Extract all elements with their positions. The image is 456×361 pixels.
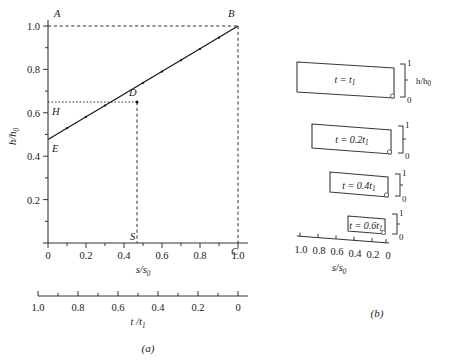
box-3-label-main: t = 0.4t bbox=[342, 180, 372, 191]
box-1-bracket-bottom-label: 0 bbox=[407, 95, 412, 105]
figure-svg: 1.0 0.8 0.6 0.4 0.2 h/h0 0 0.2 0.4 0. bbox=[0, 0, 456, 361]
box-3-corner-dot bbox=[384, 193, 388, 197]
box-1-label-sub: 1 bbox=[352, 79, 356, 87]
box-4-label-main: t = 0.6t bbox=[349, 220, 379, 231]
y-axis-title-main: h/h bbox=[7, 132, 18, 145]
y-tick-label-0.4: 0.4 bbox=[27, 151, 41, 162]
panel-b-tick-0: 0 bbox=[385, 250, 390, 261]
x-tick-label-0.4: 0.4 bbox=[117, 250, 131, 261]
x-axis-primary-title-main: s/s bbox=[136, 264, 147, 275]
panel-b-x-axis-title: s/s0 bbox=[332, 262, 347, 276]
x-tick-label-0.6: 0.6 bbox=[155, 250, 168, 261]
panel-b-tick-0.4: 0.4 bbox=[348, 248, 362, 259]
panel-b-tick-0.8: 0.8 bbox=[312, 245, 325, 256]
panel-b-x-axis-title-main: s/s bbox=[332, 262, 343, 273]
panel-b-x-axis-title-sub: 0 bbox=[343, 268, 347, 276]
y-tick-label-0.2: 0.2 bbox=[27, 195, 40, 206]
box-3-bracket-top-label: 1 bbox=[402, 168, 407, 178]
box-1-bracket-top-label: 1 bbox=[407, 58, 412, 68]
panel-a-caption: (a) bbox=[142, 342, 155, 355]
panel-a: 1.0 0.8 0.6 0.4 0.2 h/h0 0 0.2 0.4 0. bbox=[7, 8, 248, 355]
x-axis-primary-ticks bbox=[48, 243, 238, 248]
y-tick-label-0.8: 0.8 bbox=[27, 64, 40, 75]
panel-b-tick-0.6: 0.6 bbox=[330, 246, 343, 257]
box-4-bracket-top-label: 1 bbox=[399, 208, 404, 218]
y-axis-title-sub: 0 bbox=[13, 128, 21, 132]
point-label-c: C bbox=[231, 246, 239, 257]
point-label-a: A bbox=[53, 8, 61, 19]
point-label-s: S bbox=[130, 231, 136, 242]
x-axis-secondary-ticks bbox=[38, 291, 238, 296]
t-tick-label-1.0: 1.0 bbox=[31, 302, 44, 313]
point-label-d: D bbox=[128, 87, 137, 98]
box-2-corner-dot bbox=[387, 150, 391, 154]
y-tick-label-0.6: 0.6 bbox=[27, 108, 40, 119]
box-2-bracket-bottom-label: 0 bbox=[405, 151, 410, 161]
surface-box-3: t = 0.4t1 1 0 bbox=[330, 168, 407, 204]
panel-b-tick-0.2: 0.2 bbox=[366, 249, 379, 260]
point-label-h: H bbox=[51, 106, 61, 117]
x-axis-secondary-title: t /t1 bbox=[131, 316, 146, 330]
x-tick-label-0.8: 0.8 bbox=[193, 250, 206, 261]
x-axis-secondary-title-sub: 1 bbox=[142, 322, 146, 330]
box-4-bracket-bottom-label: 0 bbox=[399, 232, 404, 242]
y-axis-ticks bbox=[43, 26, 48, 243]
box-4-label-sub: 1 bbox=[379, 225, 383, 233]
box-1-corner-dot bbox=[390, 94, 394, 98]
x-axis-primary-title: s/s0 bbox=[136, 264, 151, 278]
t-tick-label-0.8: 0.8 bbox=[71, 302, 84, 313]
panel-b-x-axis-line bbox=[297, 236, 389, 243]
surface-box-1: t = t1 1 0 h/h0 bbox=[297, 58, 432, 105]
panel-b-tick-1.0: 1.0 bbox=[294, 244, 307, 255]
box-3-label-sub: 1 bbox=[372, 185, 376, 193]
panel-b: t = t1 1 0 h/h0 t = 0.2t1 1 0 t = 0. bbox=[294, 58, 431, 320]
x-axis-primary-title-sub: 0 bbox=[147, 270, 151, 278]
panel-b-caption: (b) bbox=[371, 307, 384, 320]
box-2-label-main: t = 0.2t bbox=[335, 134, 365, 145]
y-tick-label-1.0: 1.0 bbox=[27, 21, 40, 32]
bracket-axis-title-sub: 0 bbox=[428, 80, 432, 88]
point-label-b: B bbox=[228, 8, 235, 19]
figure-root: 1.0 0.8 0.6 0.4 0.2 h/h0 0 0.2 0.4 0. bbox=[0, 0, 456, 361]
t-tick-label-0: 0 bbox=[235, 302, 240, 313]
point-label-e: E bbox=[51, 143, 59, 154]
box-2-label-sub: 1 bbox=[365, 139, 369, 147]
box-2-bracket-top-label: 1 bbox=[405, 120, 410, 130]
y-axis-title: h/h0 bbox=[7, 128, 21, 145]
x-tick-label-0: 0 bbox=[45, 250, 50, 261]
x-tick-label-0.2: 0.2 bbox=[79, 250, 92, 261]
box-1-label-main: t = t bbox=[335, 74, 353, 85]
bracket-axis-title: h/h0 bbox=[416, 76, 432, 88]
box-3-bracket-bottom-label: 0 bbox=[402, 194, 407, 204]
t-tick-label-0.4: 0.4 bbox=[151, 302, 165, 313]
surface-box-2: t = 0.2t1 1 0 bbox=[312, 120, 410, 161]
svg-text:h/h0: h/h0 bbox=[7, 128, 21, 145]
t-tick-label-0.6: 0.6 bbox=[111, 302, 124, 313]
t-tick-label-0.2: 0.2 bbox=[191, 302, 204, 313]
surface-box-4: t = 0.6t1 1 0 bbox=[348, 208, 404, 242]
bracket-axis-title-main: h/h bbox=[416, 76, 428, 86]
